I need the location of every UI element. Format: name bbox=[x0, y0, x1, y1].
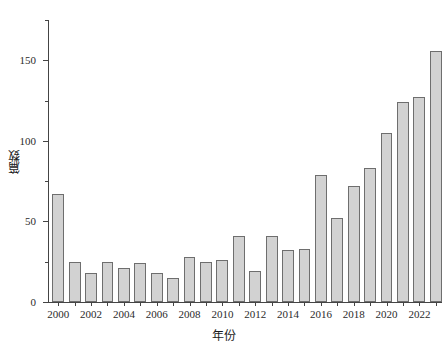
x-tick-2018 bbox=[354, 302, 355, 306]
bar-2021 bbox=[397, 102, 409, 302]
x-tick-2007 bbox=[173, 302, 174, 306]
x-tick-2021 bbox=[403, 302, 404, 306]
y-tick-50 bbox=[43, 221, 48, 222]
x-tick-2009 bbox=[206, 302, 207, 306]
bar-2014 bbox=[282, 250, 294, 302]
bar-2001 bbox=[69, 262, 81, 302]
x-tick-label-2004: 2004 bbox=[113, 308, 135, 320]
x-tick-2020 bbox=[387, 302, 388, 306]
y-tick-100 bbox=[43, 141, 48, 142]
x-tick-label-2008: 2008 bbox=[179, 308, 201, 320]
x-tick-label-2006: 2006 bbox=[146, 308, 168, 320]
plot-area: 050100150 200020022004200620082010201220… bbox=[48, 20, 444, 302]
x-tick-label-2018: 2018 bbox=[343, 308, 365, 320]
bar-2004 bbox=[118, 268, 130, 302]
bar-2009 bbox=[200, 262, 212, 302]
y-tick-0 bbox=[43, 302, 48, 303]
x-tick-2005 bbox=[140, 302, 141, 306]
x-tick-label-2022: 2022 bbox=[408, 308, 430, 320]
y-tick-minor-175 bbox=[45, 20, 48, 21]
x-tick-label-2000: 2000 bbox=[47, 308, 69, 320]
y-tick-minor-25 bbox=[45, 262, 48, 263]
x-tick-2010 bbox=[222, 302, 223, 306]
x-tick-2012 bbox=[255, 302, 256, 306]
x-tick-2001 bbox=[75, 302, 76, 306]
x-tick-2004 bbox=[124, 302, 125, 306]
x-axis-title: 年份 bbox=[0, 326, 447, 343]
x-tick-2022 bbox=[419, 302, 420, 306]
y-tick-minor-75 bbox=[45, 181, 48, 182]
x-tick-2019 bbox=[370, 302, 371, 306]
bar-2005 bbox=[134, 263, 146, 302]
y-tick-150 bbox=[43, 60, 48, 61]
bar-2000 bbox=[52, 194, 64, 302]
bar-2010 bbox=[216, 260, 228, 302]
x-tick-label-2002: 2002 bbox=[80, 308, 102, 320]
y-tick-label-100: 100 bbox=[20, 135, 37, 147]
bar-2020 bbox=[381, 133, 393, 302]
bar-2016 bbox=[315, 175, 327, 302]
bar-2003 bbox=[102, 262, 114, 302]
bar-2015 bbox=[299, 249, 311, 302]
bar-chart-figure: 篇数 050100150 200020022004200620082010201… bbox=[0, 0, 447, 350]
bar-2019 bbox=[364, 168, 376, 302]
x-tick-2002 bbox=[91, 302, 92, 306]
x-tick-2013 bbox=[272, 302, 273, 306]
x-tick-label-2014: 2014 bbox=[277, 308, 299, 320]
bar-2013 bbox=[266, 236, 278, 302]
x-tick-label-2016: 2016 bbox=[310, 308, 332, 320]
x-tick-label-2020: 2020 bbox=[376, 308, 398, 320]
bar-2007 bbox=[167, 278, 179, 302]
x-tick-2017 bbox=[337, 302, 338, 306]
bar-2006 bbox=[151, 273, 163, 302]
x-tick-label-2010: 2010 bbox=[211, 308, 233, 320]
x-tick-2023 bbox=[436, 302, 437, 306]
bar-2002 bbox=[85, 273, 97, 302]
x-tick-2008 bbox=[190, 302, 191, 306]
bar-2023 bbox=[430, 51, 442, 302]
x-tick-2003 bbox=[107, 302, 108, 306]
x-tick-2000 bbox=[58, 302, 59, 306]
x-tick-2014 bbox=[288, 302, 289, 306]
x-tick-2016 bbox=[321, 302, 322, 306]
bar-2022 bbox=[413, 97, 425, 302]
bar-2011 bbox=[233, 236, 245, 302]
y-tick-label-0: 0 bbox=[31, 296, 37, 308]
bar-2018 bbox=[348, 186, 360, 302]
y-axis-title: 篇数 bbox=[6, 150, 23, 174]
y-tick-label-50: 50 bbox=[25, 215, 36, 227]
x-tick-2011 bbox=[239, 302, 240, 306]
bar-2008 bbox=[184, 257, 196, 302]
bar-2017 bbox=[331, 218, 343, 302]
bar-2012 bbox=[249, 271, 261, 302]
y-tick-minor-125 bbox=[45, 101, 48, 102]
y-tick-label-150: 150 bbox=[20, 54, 37, 66]
x-tick-label-2012: 2012 bbox=[244, 308, 266, 320]
y-axis-line bbox=[48, 20, 49, 303]
x-tick-2006 bbox=[157, 302, 158, 306]
x-tick-2015 bbox=[304, 302, 305, 306]
